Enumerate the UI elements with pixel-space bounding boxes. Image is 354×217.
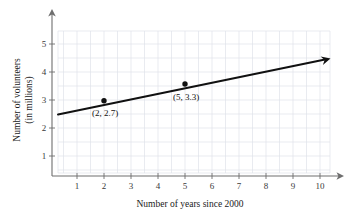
- y-axis-title: Number of volunteers (in millions): [12, 58, 35, 142]
- y-tick-label: 5: [42, 39, 47, 49]
- chart-container: 1 2 3 4 5 6 7 8 9 10 1 2 3 4 5 (2, 2.7): [0, 0, 354, 217]
- data-point-marker[interactable]: [101, 98, 106, 103]
- y-tick-label: 3: [42, 95, 47, 105]
- x-axis-title: Number of years since 2000: [136, 199, 243, 209]
- x-tick-label: 5: [183, 181, 188, 191]
- y-axis: [48, 9, 56, 176]
- data-point-label: (2, 2.7): [92, 108, 118, 118]
- y-tick-labels: 1 2 3 4 5: [42, 39, 47, 161]
- y-axis-title-line1: Number of volunteers: [12, 58, 22, 142]
- data-point-marker[interactable]: [182, 81, 187, 86]
- data-point-label: (5, 3.3): [173, 92, 199, 102]
- y-tick-label: 4: [42, 67, 47, 77]
- x-tick-label: 7: [237, 181, 242, 191]
- x-tick-label: 1: [75, 181, 80, 191]
- x-tick-label: 10: [316, 181, 326, 191]
- x-tick-label: 9: [291, 181, 296, 191]
- y-tick-label: 1: [42, 151, 47, 161]
- chart-svg: 1 2 3 4 5 6 7 8 9 10 1 2 3 4 5 (2, 2.7): [0, 0, 354, 217]
- x-tick-label: 8: [264, 181, 269, 191]
- x-tick-labels: 1 2 3 4 5 6 7 8 9 10: [75, 181, 325, 191]
- y-axis-title-line2: (in millions): [24, 76, 35, 123]
- x-tick-label: 6: [210, 181, 215, 191]
- y-tick-label: 2: [42, 123, 47, 133]
- plot-area-background: [58, 31, 330, 173]
- x-tick-label: 4: [156, 181, 161, 191]
- x-tick-label: 2: [102, 181, 107, 191]
- x-tick-label: 3: [129, 181, 134, 191]
